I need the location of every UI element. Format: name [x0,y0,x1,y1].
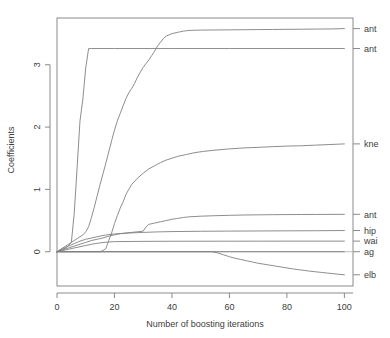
series-label-hip: hip [364,226,376,236]
y-tick-label-3: 3 [32,62,42,67]
y-axis-title: Coefficients [6,126,16,173]
x-tick-label-20: 20 [109,302,119,312]
y-tick-label-1: 1 [32,187,42,192]
series-label-ant-small: ant [364,210,377,220]
coefficient-paths-chart: 020406080100 0123 antantkneanthipwaiagel… [0,0,390,338]
series-label-knee: kne [364,139,379,149]
x-tick-label-100: 100 [337,302,352,312]
series-label-waist: wai [363,236,378,246]
y-tick-label-0: 0 [32,249,42,254]
y-tick-label-2: 2 [32,125,42,130]
x-axis-title: Number of boosting iterations [146,319,264,329]
series-label-ant-lower: ant [364,44,377,54]
series-label-ant-upper: ant [364,24,377,34]
series-label-elbow: elb [364,270,376,280]
chart-background [0,0,390,338]
chart-container: 020406080100 0123 antantkneanthipwaiagel… [0,0,390,338]
x-tick-label-40: 40 [167,302,177,312]
x-tick-label-80: 80 [282,302,292,312]
series-label-age: ag [364,247,374,257]
x-tick-label-0: 0 [54,302,59,312]
x-tick-label-60: 60 [224,302,234,312]
